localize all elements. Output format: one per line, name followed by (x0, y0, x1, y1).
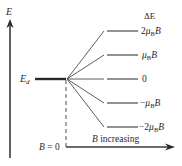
level-label-0: 0 (142, 74, 147, 84)
split-line-mub (67, 55, 104, 79)
split-levels (107, 31, 138, 127)
level-label-neg-mub: −μBB (140, 98, 160, 109)
b-zero-label: B = 0 (39, 142, 60, 152)
split-line-2mub (67, 31, 104, 79)
zeeman-diagram: E Ed ΔE 2μBB μBB 0 −μBB −2μBB (0, 0, 182, 166)
b-axis: B increasing (66, 134, 175, 151)
level-label-mub: μBB (141, 50, 157, 61)
level-label-neg-2mub: −2μBB (139, 122, 164, 133)
energy-axis-label: E (5, 6, 12, 17)
level-label-2mub: 2μBB (141, 26, 161, 37)
delta-e-header: ΔE (144, 11, 156, 21)
split-line-neg-2mub (67, 79, 104, 127)
split-line-neg-mub (67, 79, 104, 103)
splitting-fan (67, 31, 104, 127)
b-axis-label: B increasing (92, 134, 139, 144)
degenerate-level-label: Ed (19, 73, 30, 86)
energy-axis: E (5, 6, 14, 158)
degenerate-level: Ed (19, 73, 66, 86)
